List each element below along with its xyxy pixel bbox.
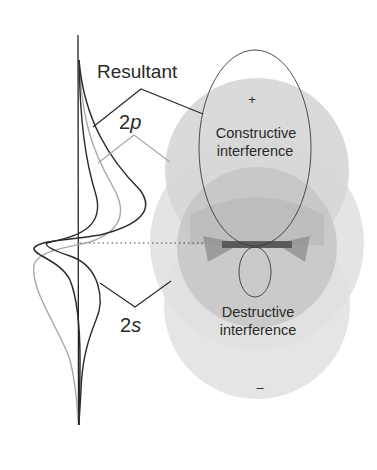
curve-2s (46, 60, 100, 425)
orbital-interference-diagram: Resultant 2p 2s + – Constructive interfe… (0, 0, 377, 470)
orbital-2s-label: 2s (120, 314, 141, 336)
orbital-2p-number: 2 (119, 111, 130, 133)
resultant-label: Resultant (97, 61, 178, 82)
constructive-label-line1: Constructive (216, 125, 297, 141)
vertical-axis (78, 35, 79, 425)
plus-sign: + (248, 92, 256, 107)
destructive-label-line2: interference (220, 322, 297, 338)
orbital-2s-letter: s (131, 314, 141, 336)
orbital-2p-letter: p (129, 111, 141, 133)
minus-sign: – (256, 380, 264, 395)
2p-leader-line (98, 135, 170, 163)
curve-2p (34, 60, 121, 420)
constructive-label-line2: interference (217, 143, 294, 159)
destructive-label-line1: Destructive (222, 304, 295, 320)
orbital-2s-number: 2 (120, 314, 131, 336)
orbital-2p-label: 2p (119, 111, 141, 133)
